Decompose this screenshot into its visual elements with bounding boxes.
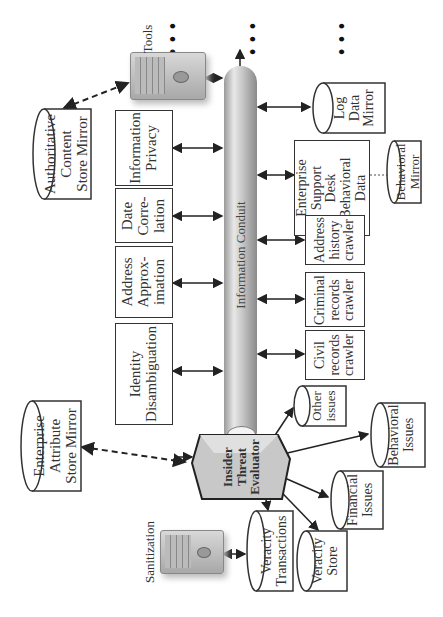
log-data-mirror-cylinder: Log Data Mirror xyxy=(312,82,386,134)
tools-label: Tools xyxy=(141,25,155,54)
date-correlation-box: Date Corre- lation xyxy=(115,188,173,243)
address-history-crawler-label: Address history crawler xyxy=(313,217,357,263)
behavioral-mirror-cylinder: Behavioral Mirror xyxy=(386,140,422,204)
civil-records-crawler-label: Civil records crawler xyxy=(313,334,357,376)
address-approximation-box: Address Approx- imation xyxy=(115,246,173,318)
continuation-dots-tools: • • • xyxy=(163,22,184,55)
sanitization-server-icon xyxy=(160,530,224,574)
conduit-label: Information Conduit xyxy=(234,201,248,308)
enterprise-support-desk-label: Enterprise Support Desk Behavioral Data xyxy=(295,157,368,218)
enterprise-attribute-store-mirror-cylinder: Enterprise Attribute Store Mirror xyxy=(20,400,82,492)
date-correlation-label: Date Corre- lation xyxy=(120,196,167,235)
enterprise-attribute-store-mirror-label: Enterprise Attribute Store Mirror xyxy=(32,408,79,483)
information-conduit: Information Conduit xyxy=(224,66,257,444)
continuation-dots-conduit: • • • xyxy=(243,22,264,55)
veracity-store-cylinder: Veracity Store xyxy=(296,530,348,592)
authoritative-content-store-mirror-label: Authoritative Content Store Mirror xyxy=(43,114,90,194)
insider-threat-evaluator: Insider Threat Evaluator xyxy=(190,433,292,501)
identity-disambiguation-label: Identity Disambiguation xyxy=(128,326,160,422)
civil-records-crawler-box: Civil records crawler xyxy=(305,330,365,380)
other-issues-label: Other issues xyxy=(311,390,338,421)
insider-threat-evaluator-label: Insider Threat Evaluator xyxy=(221,439,262,495)
criminal-records-crawler-label: Criminal records crawler xyxy=(313,275,357,325)
veracity-transactions-label: Veracity Transactions xyxy=(260,515,289,586)
behavioral-issues-label: Behavioral Issues xyxy=(388,404,417,465)
log-data-mirror-label: Log Data Mirror xyxy=(333,89,377,126)
address-history-crawler-box: Address history crawler xyxy=(305,215,365,265)
tools-server-icon xyxy=(130,52,206,100)
criminal-records-crawler-box: Criminal records crawler xyxy=(305,272,365,327)
identity-disambiguation-box: Identity Disambiguation xyxy=(115,323,173,425)
information-privacy-label: Information Privacy xyxy=(128,112,160,184)
behavioral-issues-cylinder: Behavioral Issues xyxy=(370,402,426,468)
veracity-store-label: Veracity Store xyxy=(311,538,340,585)
other-issues-cylinder: Other issues xyxy=(293,385,347,427)
financial-issues-cylinder: Financial Issues xyxy=(330,470,384,530)
continuation-dots-stores: • • • xyxy=(332,22,353,55)
authoritative-content-store-mirror-cylinder: Authoritative Content Store Mirror xyxy=(32,108,92,200)
sanitization-label: Sanitization xyxy=(143,521,157,583)
behavioral-mirror-label: Behavioral Mirror xyxy=(394,143,421,200)
information-privacy-box: Information Privacy xyxy=(115,110,173,186)
financial-issues-label: Financial Issues xyxy=(347,474,376,526)
veracity-transactions-cylinder: Veracity Transactions xyxy=(246,510,294,592)
address-approximation-label: Address Approx- imation xyxy=(120,257,167,308)
